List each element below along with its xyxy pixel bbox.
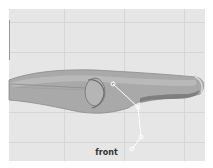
camera-label: front [0,148,213,157]
knuckle-joint-mesh [85,78,105,106]
finger-mesh-scene[interactable] [0,0,213,168]
finger-mesh [9,70,204,113]
